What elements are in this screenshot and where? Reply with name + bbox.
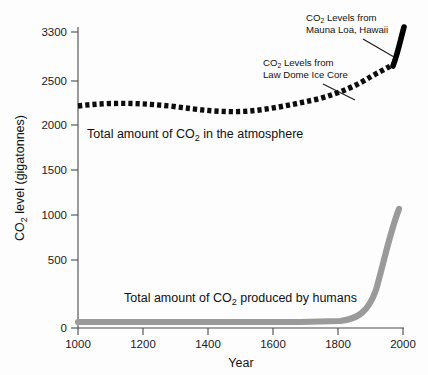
x-tick-label-1200: 1200 <box>130 338 156 350</box>
annotation-mauna-loa-line2: Mauna Loa, Hawaii <box>306 24 388 35</box>
y-tick-label-3300: 3300 <box>41 26 67 38</box>
y-axis-title-post: level (gigatonnes) <box>13 115 27 217</box>
annotation-law-dome-line1: CO2 Levels from <box>263 57 334 69</box>
annotation-law-dome: CO2 Levels from Law Dome Ice Core <box>263 57 355 100</box>
chart-canvas: 3300 2500 2000 1500 1000 500 0 1000 1200… <box>0 0 428 375</box>
annotation-law-dome-line2: Law Dome Ice Core <box>263 69 348 80</box>
annotation-mauna-loa-line1: CO2 Levels from <box>306 12 377 24</box>
leader-line-mauna-loa <box>363 39 394 57</box>
x-axis: 1000 1200 1400 1600 1800 2000 <box>65 328 416 350</box>
y-axis-title-pre: CO <box>13 222 27 241</box>
x-axis-title: Year <box>228 356 253 370</box>
y-tick-label-0: 0 <box>61 322 67 334</box>
y-axis-title: CO2 level (gigatonnes) <box>13 115 29 241</box>
y-tick-label-1000: 1000 <box>41 209 67 221</box>
series-human-emissions <box>78 209 399 322</box>
y-tick-label-2000: 2000 <box>41 119 67 131</box>
series-mauna-loa <box>393 27 404 66</box>
x-tick-label-2000: 2000 <box>390 338 416 350</box>
x-tick-label-1800: 1800 <box>325 338 351 350</box>
svg-text:CO2 level (gigatonnes): CO2 level (gigatonnes) <box>13 115 29 241</box>
y-axis: 3300 2500 2000 1500 1000 500 0 <box>41 26 78 334</box>
y-tick-label-500: 500 <box>48 254 67 266</box>
series-label-human: Total amount of CO2 produced by humans <box>124 291 357 307</box>
x-tick-label-1000: 1000 <box>65 338 91 350</box>
annotation-mauna-loa: CO2 Levels from Mauna Loa, Hawaii <box>306 12 394 57</box>
x-tick-label-1400: 1400 <box>195 338 221 350</box>
y-tick-label-1500: 1500 <box>41 164 67 176</box>
x-tick-label-1600: 1600 <box>260 338 286 350</box>
series-label-atmosphere: Total amount of CO2 in the atmosphere <box>87 127 303 143</box>
co2-chart: 3300 2500 2000 1500 1000 500 0 1000 1200… <box>0 0 428 375</box>
y-tick-label-2500: 2500 <box>41 75 67 87</box>
